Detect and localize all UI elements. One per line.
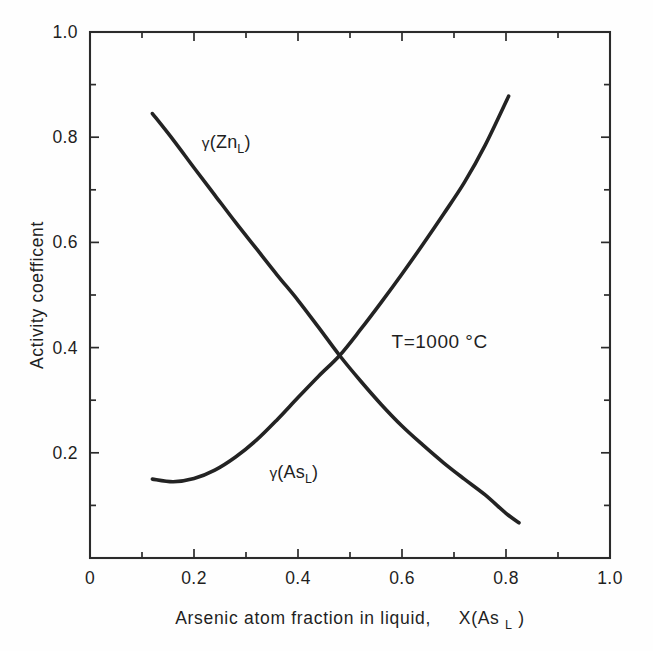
data-curve-gamma-zn <box>152 114 519 523</box>
series-label-subscript: L <box>237 142 244 156</box>
y-tick-label: 1.0 <box>52 22 78 42</box>
x-tick-label: 1.0 <box>597 568 623 588</box>
y-axis-title: Activity coefficent <box>27 221 47 369</box>
plot-frame <box>90 32 610 558</box>
series-label-subscript: L <box>305 472 312 486</box>
x-axis-title: Arsenic atom fraction in liquid, X(As L … <box>175 608 525 633</box>
y-tick-label: 0.4 <box>52 338 78 358</box>
x-axis-title-text: Arsenic atom fraction in liquid, <box>175 608 431 628</box>
series-label-tail: ) <box>312 462 318 482</box>
series-label-base: (As <box>277 462 305 482</box>
x-tick-label: 0.2 <box>181 568 207 588</box>
series-label-gamma: γ <box>202 134 210 151</box>
y-tick-label: 0.6 <box>52 232 78 252</box>
series-label-gamma: γ <box>269 464 277 481</box>
figure-container: 00.20.40.60.81.0 0.20.40.60.81.0 γ(ZnL) … <box>0 0 653 651</box>
data-curve-gamma-as <box>152 96 508 482</box>
series-label-gamma-as: γ(AsL) <box>269 462 318 486</box>
y-axis-tick-labels: 0.20.40.60.81.0 <box>52 22 78 463</box>
x-axis-title-symbol-tail: ) <box>518 608 525 628</box>
series-label-base: (Zn <box>210 132 238 152</box>
x-tick-label: 0.4 <box>285 568 311 588</box>
x-tick-label: 0.8 <box>493 568 519 588</box>
activity-coefficient-chart: 00.20.40.60.81.0 0.20.40.60.81.0 γ(ZnL) … <box>0 0 653 651</box>
data-curves <box>152 96 519 523</box>
x-axis-title-subscript: L <box>505 618 513 632</box>
y-tick-label: 0.8 <box>52 127 78 147</box>
temperature-annotation: T=1000 °C <box>392 331 488 352</box>
x-axis-tick-labels: 00.20.40.60.81.0 <box>85 568 623 588</box>
x-tick-label: 0 <box>85 568 95 588</box>
x-tick-label: 0.6 <box>389 568 415 588</box>
series-label-tail: ) <box>245 132 251 152</box>
series-label-gamma-zn: γ(ZnL) <box>202 132 251 156</box>
axis-ticks <box>90 32 610 558</box>
x-axis-title-symbol: X(As <box>459 608 500 628</box>
y-tick-label: 0.2 <box>52 443 78 463</box>
